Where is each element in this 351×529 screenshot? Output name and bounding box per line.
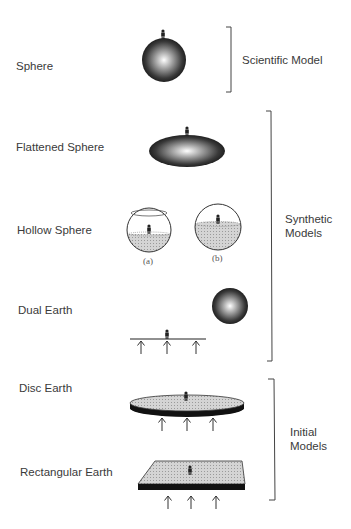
group-label-initial-line1: Initial — [290, 425, 317, 439]
group-label-initial-line2: Models — [290, 439, 327, 453]
support-arrow-icon — [164, 341, 171, 354]
person-icon — [147, 224, 151, 234]
group-label-scientific: Scientific Model — [242, 53, 323, 67]
support-arrow-icon — [165, 496, 172, 509]
person-icon — [185, 126, 189, 136]
person-icon — [165, 329, 169, 339]
support-arrow-icon — [193, 341, 200, 354]
support-arrow-icon — [184, 418, 191, 431]
group-label-synthetic-line1: Synthetic — [285, 212, 332, 226]
label-sphere: Sphere — [16, 59, 53, 73]
label-rectangular-earth: Rectangular Earth — [20, 465, 113, 479]
scientific-bracket — [226, 27, 231, 92]
flattened-sphere-figure — [149, 126, 225, 167]
initial-bracket — [268, 379, 275, 500]
label-hollow-sphere: Hollow Sphere — [17, 223, 92, 237]
support-arrow-icon — [213, 496, 220, 509]
label-flattened-sphere: Flattened Sphere — [16, 140, 104, 154]
synthetic-bracket — [266, 111, 272, 361]
dual-earth-figure — [130, 288, 248, 354]
support-arrow-icon — [188, 496, 195, 509]
rectangular-earth-figure — [138, 461, 245, 509]
hollow-sphere-a-figure — [125, 208, 173, 258]
support-arrow-icon — [159, 418, 166, 431]
hollow-sphere-b-figure — [194, 204, 242, 252]
person-icon — [161, 29, 165, 39]
label-dual-earth: Dual Earth — [18, 303, 72, 317]
label-disc-earth: Disc Earth — [19, 381, 72, 395]
support-arrow-icon — [210, 418, 217, 431]
support-arrow-icon — [138, 341, 145, 354]
sphere-figure — [142, 29, 186, 82]
label-variant-a: (a) — [143, 256, 153, 266]
disc-earth-figure — [130, 391, 244, 431]
group-label-synthetic-line2: Models — [285, 226, 322, 240]
label-variant-b: (b) — [212, 253, 223, 263]
